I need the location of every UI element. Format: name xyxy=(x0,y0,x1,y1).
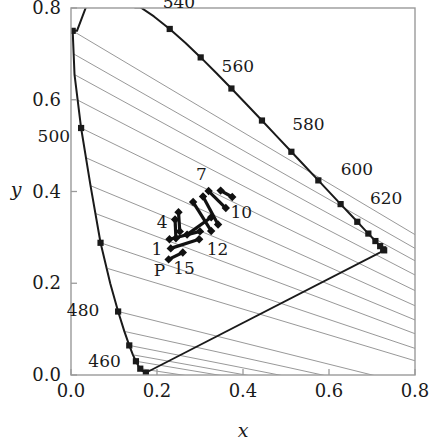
wavelength-label-580: 580 xyxy=(292,114,324,134)
locus-marker-3 xyxy=(126,342,132,348)
x-tick-label-2: 0.4 xyxy=(229,380,258,401)
wavelength-label-500: 500 xyxy=(38,126,70,146)
wavelength-label-620: 620 xyxy=(370,188,402,208)
x-tick-label-3: 0.6 xyxy=(315,380,344,401)
x-tick-label-4: 0.8 xyxy=(401,380,430,401)
locus-marker-22 xyxy=(381,247,387,253)
wavelength-label-600: 600 xyxy=(341,159,373,179)
wavelength-label-460: 460 xyxy=(88,351,120,371)
locus-marker-18 xyxy=(365,230,371,236)
locus-marker-1 xyxy=(137,366,143,372)
y-tick-label-0: 0.0 xyxy=(32,364,61,385)
chromaticity-diagram-figure: 0.00.20.40.60.80.00.20.40.60.8 460480500… xyxy=(0,0,433,444)
segment-label-7: 7 xyxy=(196,164,207,184)
wavelength-label-540: 540 xyxy=(163,0,195,12)
locus-marker-11 xyxy=(198,54,204,60)
locus-marker-5 xyxy=(97,240,103,246)
segment-label-1: 1 xyxy=(152,239,163,259)
locus-marker-13 xyxy=(259,117,265,123)
y-tick-label-3: 0.6 xyxy=(32,89,61,110)
x-tick-label-1: 0.2 xyxy=(143,380,172,401)
locus-marker-4 xyxy=(115,308,121,314)
segment-label-P: P xyxy=(154,260,165,280)
locus-marker-16 xyxy=(338,201,344,207)
segment-label-15: 15 xyxy=(173,258,195,278)
locus-marker-10 xyxy=(167,26,173,32)
y-tick-label-4: 0.8 xyxy=(32,0,61,18)
wavelength-label-480: 480 xyxy=(67,300,99,320)
y-axis-label: y xyxy=(10,178,22,200)
wavelength-label-560: 560 xyxy=(222,56,254,76)
segment-label-4: 4 xyxy=(157,212,168,232)
segment-label-10: 10 xyxy=(230,202,252,222)
x-axis-label: x xyxy=(238,419,249,441)
chart-canvas: 0.00.20.40.60.80.00.20.40.60.8 460480500… xyxy=(0,0,433,444)
locus-marker-12 xyxy=(228,85,234,91)
locus-marker-17 xyxy=(354,219,360,225)
locus-marker-14 xyxy=(288,149,294,155)
y-tick-label-2: 0.4 xyxy=(32,181,61,202)
segment-label-12: 12 xyxy=(207,239,229,259)
locus-marker-15 xyxy=(315,177,321,183)
y-tick-label-1: 0.2 xyxy=(32,272,61,293)
locus-marker-2 xyxy=(133,358,139,364)
locus-marker-6 xyxy=(78,125,84,131)
